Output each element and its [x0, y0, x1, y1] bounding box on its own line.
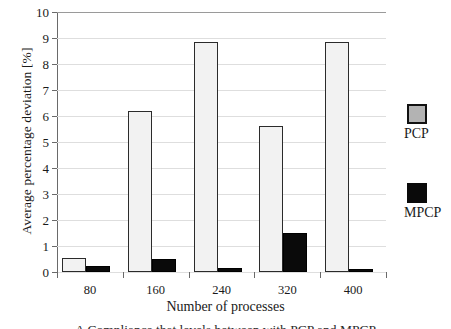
- legend-label-mpcp: MPCP: [404, 205, 451, 221]
- y-tick-label: 3: [43, 188, 50, 201]
- bar-pcp-320: [259, 126, 283, 272]
- y-tick-mark: [52, 38, 57, 39]
- y-tick-label: 6: [43, 110, 50, 123]
- plot-area: 012345678910: [57, 12, 386, 272]
- gray-square-swatch: [407, 104, 427, 124]
- legend-entry-pcp: PCP: [404, 104, 451, 142]
- x-tick-label-400: 400: [344, 283, 363, 298]
- legend-label-pcp: PCP: [404, 126, 451, 142]
- y-tick-label: 7: [43, 84, 50, 97]
- y-tick-mark: [52, 194, 57, 195]
- figure-caption: A Compliance that levels between with PC…: [0, 322, 451, 329]
- black-square-swatch: [407, 183, 427, 203]
- x-tick-label-320: 320: [278, 283, 297, 298]
- y-tick-label: 1: [43, 240, 50, 253]
- x-tick-mark: [320, 272, 321, 278]
- x-tick-mark: [254, 272, 255, 278]
- x-tick-mark: [123, 272, 124, 278]
- y-tick-mark: [52, 220, 57, 221]
- y-tick-mark: [52, 90, 57, 91]
- bar-mpcp-320: [283, 233, 307, 272]
- y-tick-label: 4: [43, 162, 50, 175]
- x-tick-label-240: 240: [212, 283, 231, 298]
- y-tick-label: 8: [43, 58, 50, 71]
- x-tick-label-80: 80: [84, 283, 97, 298]
- x-axis-title: Number of processes: [0, 299, 451, 315]
- y-tick-label: 5: [43, 136, 50, 149]
- grid-line: [57, 272, 386, 273]
- bar-pcp-160: [128, 111, 152, 272]
- x-tick-mark: [57, 272, 58, 278]
- bar-mpcp-160: [152, 259, 176, 272]
- y-tick-label: 9: [43, 32, 50, 45]
- y-tick-mark: [52, 116, 57, 117]
- bar-pcp-240: [194, 42, 218, 272]
- y-tick-mark: [52, 168, 57, 169]
- bar-pcp-80: [62, 258, 86, 272]
- y-tick-label: 2: [43, 214, 50, 227]
- y-tick-mark: [52, 12, 57, 13]
- y-axis-title: Average percentage deviation [%]: [19, 11, 35, 271]
- y-tick-mark: [52, 64, 57, 65]
- x-tick-mark: [386, 272, 387, 278]
- y-tick-label: 10: [36, 6, 49, 19]
- x-tick-mark: [189, 272, 190, 278]
- bar-pcp-400: [325, 42, 349, 272]
- bar-chart-figure: Average percentage deviation [%] 0123456…: [0, 0, 451, 329]
- y-tick-label: 0: [43, 266, 50, 279]
- y-tick-mark: [52, 142, 57, 143]
- bar-mpcp-80: [86, 266, 110, 273]
- bar-mpcp-400: [349, 269, 373, 272]
- x-tick-label-160: 160: [146, 283, 165, 298]
- legend-entry-mpcp: MPCP: [404, 183, 451, 221]
- bar-mpcp-240: [218, 268, 242, 272]
- grid-line: [57, 38, 386, 39]
- grid-line: [57, 12, 386, 13]
- y-tick-mark: [52, 246, 57, 247]
